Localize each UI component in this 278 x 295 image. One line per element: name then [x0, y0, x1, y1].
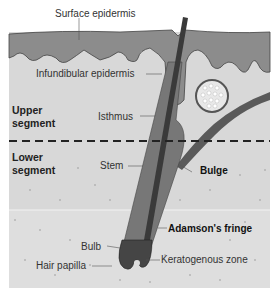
label-surface-epidermis: Surface epidermis [55, 8, 136, 20]
label-bulb: Bulb [81, 241, 101, 253]
hair-follicle-diagram: Surface epidermis Infundibular epidermis… [0, 0, 278, 295]
label-isthmus: Isthmus [98, 111, 133, 123]
label-bulge: Bulge [200, 165, 228, 177]
hair-papilla [134, 260, 140, 266]
lower-segment-line1: Lower [12, 151, 55, 164]
label-lower-segment: Lower segment [12, 151, 55, 177]
label-adamsons-fringe: Adamson's fringe [168, 223, 252, 235]
label-keratogenous-zone: Keratogenous zone [161, 254, 248, 266]
upper-segment-line2: segment [12, 117, 55, 130]
label-infundibular-epidermis: Infundibular epidermis [36, 68, 134, 80]
label-stem: Stem [100, 160, 123, 172]
diagram-illustration [0, 0, 278, 295]
label-upper-segment: Upper segment [12, 104, 55, 130]
label-hair-papilla: Hair papilla [36, 260, 86, 272]
lower-segment-line2: segment [12, 164, 55, 177]
upper-segment-line1: Upper [12, 104, 55, 117]
